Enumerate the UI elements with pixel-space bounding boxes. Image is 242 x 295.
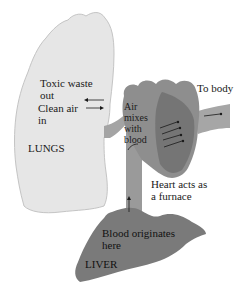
circulation-diagram: Toxic waste out Clean air in LUNGS Air m…	[0, 0, 242, 295]
label-heart-furnace: Heart acts as a furnace	[151, 178, 207, 202]
label-clean-air: Clean air in	[38, 102, 78, 126]
label-to-body: To body	[197, 82, 233, 94]
label-blood-originates: Blood originates here	[102, 227, 175, 251]
label-liver: LIVER	[85, 258, 117, 270]
label-toxic-waste: Toxic waste out	[40, 77, 93, 101]
label-air-mixes: Air mixes with blood	[124, 101, 148, 145]
aorta-vessel	[196, 104, 230, 134]
label-lungs: LUNGS	[28, 142, 65, 154]
arrow-head-icon	[220, 113, 222, 115]
